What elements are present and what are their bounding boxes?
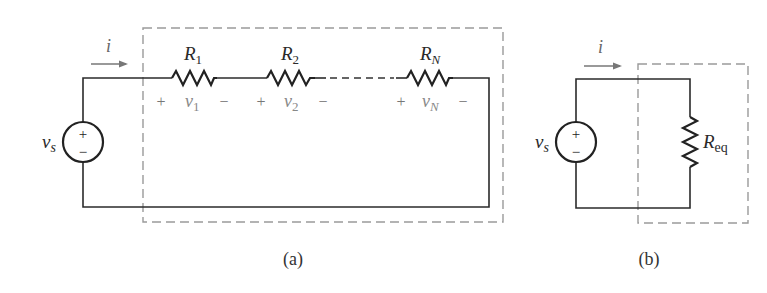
- resistor-rn: [407, 71, 453, 85]
- svg-text:−: −: [219, 93, 228, 110]
- svg-text:−: −: [318, 93, 327, 110]
- svg-text:+: +: [256, 93, 265, 110]
- r1-label: R1: [183, 43, 202, 67]
- dashed-enclosure-b: [638, 64, 748, 223]
- panel-b: + − vs i Req (b): [535, 37, 748, 270]
- panel-a: + − vs i R1 R2 RN + v1 − + v2 − +: [42, 28, 503, 270]
- caption-a: (a): [283, 249, 303, 270]
- v1-polarity: + v1 −: [156, 91, 228, 114]
- req-label: Req: [702, 131, 728, 155]
- svg-text:+: +: [396, 93, 405, 110]
- source-minus-b: −: [572, 144, 580, 160]
- source-plus-a: +: [79, 126, 87, 142]
- series-resistor-figure: + − vs i R1 R2 RN + v1 − + v2 − +: [0, 0, 767, 293]
- current-label-a: i: [106, 36, 111, 56]
- svg-text:+: +: [156, 93, 165, 110]
- v2-polarity: + v2 −: [256, 91, 327, 114]
- svg-text:−: −: [458, 93, 467, 110]
- rn-label: RN: [419, 43, 442, 67]
- current-label-b: i: [598, 37, 603, 57]
- arrowhead-icon-a: [119, 61, 128, 68]
- source-label-b: vs: [535, 131, 549, 155]
- source-plus-b: +: [572, 126, 580, 142]
- resistor-r1: [172, 71, 217, 85]
- source-label-a: vs: [42, 131, 56, 155]
- wire-bottom-b: [576, 162, 690, 208]
- r2-label: R2: [280, 43, 299, 67]
- circuit-diagram: + − vs i R1 R2 RN + v1 − + v2 − +: [0, 0, 767, 293]
- resistor-req: [683, 117, 697, 167]
- vn-label: vN: [422, 91, 440, 114]
- v1-label: v1: [185, 91, 200, 114]
- vn-polarity: + vN −: [396, 91, 467, 114]
- arrowhead-icon-b: [613, 63, 622, 70]
- source-minus-a: −: [79, 144, 87, 160]
- v2-label: v2: [284, 91, 299, 114]
- caption-b: (b): [639, 249, 660, 270]
- wire-top-b: [576, 79, 690, 122]
- resistor-r2: [267, 71, 315, 85]
